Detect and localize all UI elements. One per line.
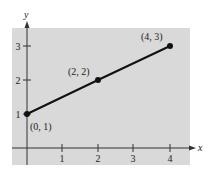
data-point	[24, 111, 30, 117]
x-axis-arrow-icon	[189, 146, 196, 151]
point-label: (2, 2)	[68, 66, 90, 78]
data-point	[167, 43, 173, 49]
y-tick-label: 1	[16, 109, 21, 120]
y-axis-arrow-icon	[25, 21, 30, 28]
chart: x y 1 2 3 4 1 2 3 (0, 1) (2, 2) (4, 3)	[0, 0, 211, 178]
x-tick-label: 3	[131, 153, 136, 164]
y-axis-label: y	[23, 9, 29, 20]
point-label: (4, 3)	[141, 31, 163, 43]
x-tick-label: 4	[168, 153, 173, 164]
x-tick-label: 2	[96, 153, 101, 164]
y-tick-label: 3	[16, 41, 21, 52]
x-axis-label: x	[197, 142, 203, 153]
y-tick-label: 2	[16, 75, 21, 86]
x-tick-label: 1	[60, 153, 65, 164]
point-label: (0, 1)	[30, 121, 52, 133]
data-point	[95, 77, 101, 83]
